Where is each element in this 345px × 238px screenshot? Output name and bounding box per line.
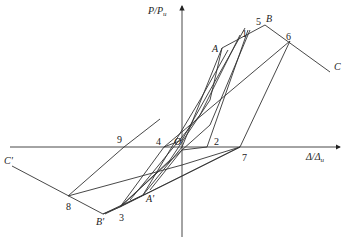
- loop-line: [130, 35, 240, 200]
- point-4-label: 4: [156, 136, 161, 147]
- y-axis-label: P/Pu: [147, 5, 167, 18]
- point-6-label: 6: [286, 31, 291, 42]
- loop-line: [164, 41, 290, 147]
- hysteresis-diagram: P/Pu Δ/Δu O A A' B B' C C' 1 2 3 4 5 6 7…: [0, 0, 345, 238]
- point-B-prime-label: B': [96, 216, 105, 227]
- point-1-label: 1: [242, 28, 247, 39]
- loop-line: [68, 41, 290, 196]
- point-3-label: 3: [119, 212, 124, 223]
- point-8-label: 8: [66, 201, 71, 212]
- x-axis-label: Δ/Δu: [305, 151, 325, 164]
- point-2-label: 2: [214, 136, 219, 147]
- origin-label: O: [174, 136, 181, 147]
- point-5-label: 5: [256, 16, 261, 27]
- loop-line: [103, 30, 248, 214]
- loop-line: [68, 119, 160, 196]
- loop-line: [120, 28, 245, 207]
- point-B-label: B: [266, 13, 272, 24]
- point-9-label: 9: [117, 134, 122, 145]
- point-7-label: 7: [242, 152, 247, 163]
- skeleton-positive: [182, 25, 330, 147]
- point-C-prime-label: C': [4, 155, 14, 166]
- point-A-label: A: [211, 43, 219, 54]
- point-C-label: C: [334, 61, 341, 72]
- point-A-prime-label: A': [145, 193, 155, 204]
